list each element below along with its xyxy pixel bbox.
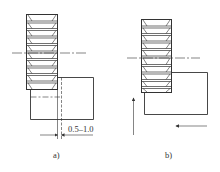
figure-canvas: 0.5–1.0 a) <box>0 0 220 172</box>
workpiece-a <box>31 78 94 120</box>
gear-stack-b <box>142 20 172 93</box>
panel-a <box>12 15 94 140</box>
workpiece-b <box>145 73 208 115</box>
panel-a-label: a) <box>53 150 60 160</box>
dimension-label: 0.5–1.0 <box>68 124 94 134</box>
panel-b <box>127 20 208 136</box>
gear-stack-a <box>27 15 58 90</box>
panel-b-label: b) <box>165 150 172 160</box>
